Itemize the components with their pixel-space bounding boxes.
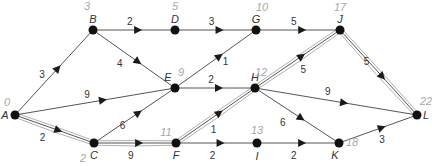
edge-E-H: 2 [175,74,255,92]
edge-B-E: 4 [93,30,175,88]
arrowhead-icon [217,139,225,147]
node-A: A0 [0,96,19,121]
node-earliest-time: 0 [4,96,11,108]
node-earliest-time: 13 [251,124,264,136]
edge-weight-label: 2 [127,16,133,27]
node-dot-icon [171,26,180,35]
arrowhead-icon [215,84,223,92]
edge-weight-label: 3 [39,69,45,80]
edge-A-B: 3 [15,30,93,115]
node-earliest-time: 11 [160,126,171,138]
edge-weight-label: 3 [379,134,385,145]
node-B: B3 [84,0,98,35]
node-earliest-time: 2 [79,152,86,164]
node-earliest-time: 12 [255,66,267,78]
node-G: G10 [252,1,269,35]
critical-path-stroke [14,117,93,145]
node-label: F [173,149,181,161]
arrowhead-icon [339,98,348,106]
edge-line [93,30,175,88]
node-J: J17 [334,1,347,35]
node-earliest-time: 17 [334,1,347,13]
critical-path-stroke [256,32,341,90]
arrowhead-icon [298,139,306,147]
node-label: L [423,109,429,121]
edge-H-J: 5 [255,30,340,88]
arrowhead-icon [216,26,224,34]
edge-line [15,30,93,115]
edge-line [340,30,417,115]
edge-weight-label: 5 [300,64,306,75]
node-K: K18 [331,136,359,161]
edge-weight-label: 9 [128,150,134,161]
arrowhead-icon [133,56,142,64]
arrowhead-icon [134,26,142,34]
edge-weight-label: 2 [40,132,46,143]
edge-weight-label: 3 [209,16,215,27]
node-dot-icon [89,26,98,35]
arrowhead-icon [296,54,305,62]
node-L: L22 [413,95,432,121]
node-dot-icon [172,139,181,148]
node-earliest-time: 22 [419,95,432,107]
node-earliest-time: 5 [172,0,179,12]
edge-J-L: 5 [340,30,417,115]
node-dot-icon [11,111,20,120]
edge-H-L: 9 [255,86,417,115]
node-label: D [171,13,179,25]
node-earliest-time: 10 [256,1,269,13]
edge-weight-label: 5 [291,16,297,27]
edge-weight-label: 9 [325,86,331,97]
edge-weight-label: 5 [364,56,370,67]
critical-path-stroke [342,29,419,114]
edge-F-I: 2 [176,139,257,161]
node-label: I [255,150,258,162]
edge-weight-label: 6 [120,120,126,131]
nodes: A0B3C2D5E9F11G10H12I13J17K18L22 [0,0,432,164]
edge-I-K: 2 [257,139,339,161]
node-label: C [90,149,98,161]
node-dot-icon [253,139,262,148]
edge-weight-label: 9 [84,89,90,100]
node-earliest-time: 3 [84,0,91,12]
node-D: D5 [171,0,180,35]
edge-weight-label: 2 [210,150,216,161]
edge-weight-label: 1 [223,56,229,67]
arrowhead-icon [98,97,107,105]
node-label: J [336,13,343,25]
critical-path-stroke [94,145,176,146]
critical-path-stroke [177,90,256,145]
edge-line [255,30,340,88]
node-dot-icon [251,84,260,93]
arrowhead-icon [133,111,142,119]
edge-line [15,88,175,115]
edge-weight-label: 1 [211,124,217,135]
node-label: B [89,13,96,25]
edge-weight-label: 6 [280,117,286,128]
edge-F-H: 1 [176,88,255,143]
node-dot-icon [252,26,261,35]
node-E: E9 [164,66,184,93]
arrowhead-icon [214,54,223,62]
arrowhead-icon [298,26,306,34]
arrowhead-icon [296,113,305,121]
node-label: G [252,13,261,25]
node-earliest-time: 18 [346,136,359,148]
edge-line [15,115,94,143]
node-label: A [0,109,8,121]
node-C: C2 [79,139,99,165]
edge-line [175,30,256,88]
edge-weight-label: 2 [291,150,297,161]
node-earliest-time: 9 [178,66,184,78]
node-dot-icon [90,139,99,148]
edge-A-E: 9 [15,88,175,115]
arrowhead-icon [214,110,223,118]
edge-E-G: 1 [175,30,256,88]
edge-weight-label: 2 [208,74,214,85]
node-dot-icon [171,84,180,93]
edge-A-C: 2 [15,115,94,143]
activity-network-diagram: 3922469312125596253 A0B3C2D5E9F11G10H12I… [0,0,432,166]
node-label: K [331,149,339,161]
edge-B-D: 2 [93,16,175,34]
node-label: E [164,71,172,83]
